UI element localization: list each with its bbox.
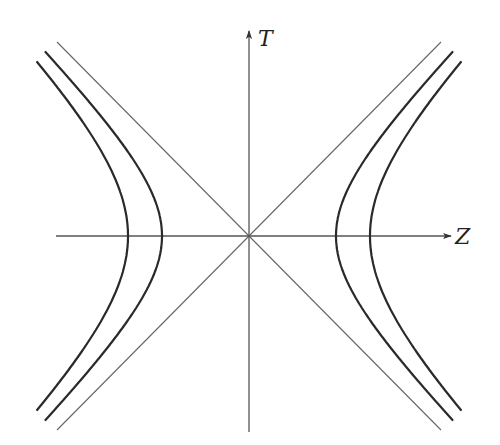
t-axis-label: T bbox=[258, 26, 275, 51]
z-axis-label: Z bbox=[454, 224, 471, 249]
hyperbola-diagram: T Z bbox=[0, 0, 500, 445]
